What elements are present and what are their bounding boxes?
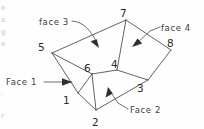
edge-4-3	[117, 70, 148, 80]
face-1-label: Face 1	[6, 77, 37, 87]
margin-mark-4: e	[1, 40, 5, 48]
face-2-arrow-icon	[106, 87, 113, 98]
vertex-label-3: 3	[137, 82, 144, 94]
margin-artifacts: eage-r	[1, 4, 5, 120]
vertex-label-4: 4	[111, 58, 118, 70]
edge-2-1	[78, 93, 96, 110]
diagram-canvas: Face 1Face 2face 3face 4 12345678 eage-r	[0, 0, 204, 129]
margin-mark-1: e	[1, 4, 5, 12]
vertex-label-2: 2	[92, 116, 99, 128]
vertex-label-8: 8	[167, 37, 174, 49]
wireframe-svg: Face 1Face 2face 3face 4 12345678 eage-r	[0, 0, 204, 129]
edge-6-2	[92, 74, 96, 110]
face-3-label: face 3	[39, 17, 69, 27]
face-3-leader-line	[72, 21, 96, 41]
margin-mark-6: r	[1, 112, 4, 120]
margin-mark-2: a	[1, 16, 5, 24]
face-2-label: Face 2	[130, 105, 161, 115]
edge-8-3	[148, 50, 171, 80]
face-4-label: face 4	[161, 23, 191, 33]
face-1-arrow-icon	[62, 78, 72, 86]
edge-6-4	[92, 70, 117, 74]
face-callouts: Face 1Face 2face 3face 4	[6, 17, 191, 115]
margin-mark-3: g	[1, 28, 5, 36]
edge-4-7	[117, 20, 126, 70]
vertex-label-7: 7	[120, 7, 127, 19]
margin-mark-5: -	[1, 90, 4, 98]
edge-1-5	[52, 53, 78, 93]
face-3-arrow-icon	[91, 39, 100, 48]
vertex-label-5: 5	[38, 41, 45, 53]
vertex-label-6: 6	[84, 62, 91, 74]
vertex-label-1: 1	[63, 94, 70, 106]
edge-1-6b	[78, 74, 92, 93]
